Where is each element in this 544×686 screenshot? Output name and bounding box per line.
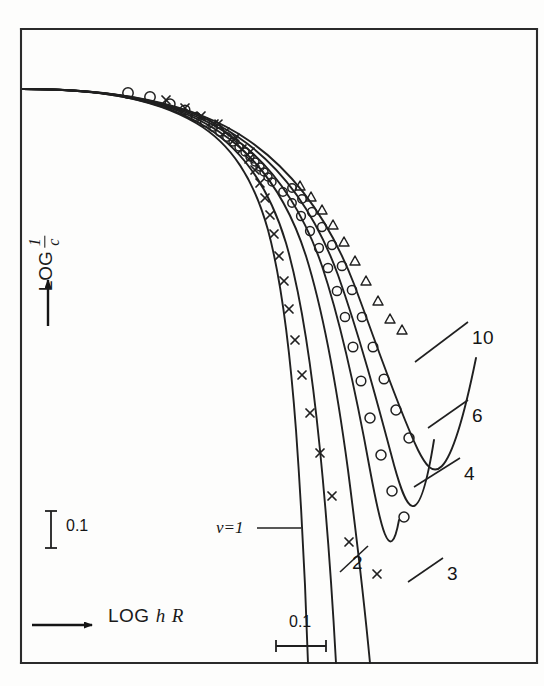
- figure-panel: LOG 1 c LOG h R 0.1 0.1 ν=1 2 3 4 6 10: [0, 0, 544, 686]
- data-point-circle: [328, 241, 337, 250]
- curve-group: [23, 89, 476, 663]
- data-point-cross: [285, 305, 293, 313]
- x-axis-label-prefix: LOG: [108, 605, 150, 627]
- data-point-cross: [270, 230, 278, 238]
- data-point-circle: [391, 405, 401, 415]
- data-point-cross: [373, 570, 381, 578]
- data-point-cross: [328, 492, 336, 500]
- vertical-scale-bar-label: 0.1: [66, 517, 88, 535]
- y-axis-label: LOG 1 c: [24, 200, 64, 330]
- horizontal-scale-bar-label: 0.1: [289, 613, 311, 631]
- data-point-cross: [162, 96, 170, 104]
- vertical-scale-bar: [45, 511, 57, 548]
- curve-nu-4: [23, 89, 399, 541]
- curve-label-nu-10: 10: [472, 327, 494, 349]
- data-point-triangle: [317, 205, 327, 214]
- data-point-cross: [256, 179, 264, 187]
- data-point-cross: [238, 145, 246, 153]
- plot-canvas: [0, 0, 544, 686]
- axis-frame: [21, 29, 537, 663]
- curve-label-nu-2: 2: [352, 552, 363, 574]
- data-point-circle: [387, 486, 397, 496]
- horizontal-scale-bar: [276, 640, 326, 652]
- data-point-circle: [347, 285, 356, 294]
- data-point-triangle: [361, 276, 371, 285]
- data-point-cross: [280, 277, 288, 285]
- data-point-circle: [356, 376, 366, 386]
- data-point-triangle: [373, 296, 383, 305]
- data-point-triangle: [385, 314, 395, 323]
- curve-nu-6: [23, 89, 434, 506]
- y-axis-label-fraction: 1 c: [27, 236, 62, 248]
- data-point-circle: [379, 374, 389, 384]
- data-point-circle: [332, 286, 341, 295]
- data-point-cross: [247, 148, 254, 155]
- data-point-triangle: [339, 237, 349, 246]
- data-point-circle: [323, 263, 332, 272]
- curve-label-nu-1: ν=1: [216, 518, 244, 538]
- data-point-cross: [345, 538, 353, 546]
- data-point-circle: [365, 413, 375, 423]
- data-point-circle: [399, 512, 409, 522]
- x-axis-label-var-h: h: [156, 605, 166, 627]
- data-point-cross: [306, 409, 314, 417]
- marker-group-crosses: [162, 96, 381, 578]
- data-point-triangle: [328, 220, 338, 229]
- leader-line-nu3: [408, 558, 443, 582]
- data-point-cross: [298, 371, 306, 379]
- curve-label-nu-6: 6: [472, 405, 483, 427]
- data-point-circle: [348, 342, 358, 352]
- curve-label-nu-4: 4: [464, 463, 475, 485]
- data-point-cross: [266, 211, 274, 219]
- fraction-numerator: 1: [27, 236, 43, 248]
- data-point-circle: [340, 312, 349, 321]
- fraction-denominator: c: [47, 237, 63, 248]
- x-axis-label: LOG h R: [108, 605, 184, 627]
- data-point-cross: [275, 252, 283, 260]
- data-point-circle: [376, 450, 386, 460]
- leader-line-group: [257, 322, 468, 582]
- data-point-triangle: [350, 256, 360, 265]
- data-point-circle: [337, 261, 346, 270]
- data-point-circle: [318, 223, 327, 232]
- curve-label-nu-3: 3: [447, 563, 458, 585]
- axis-arrow-group: [32, 280, 92, 625]
- curve-nu-3: [23, 89, 370, 663]
- leader-line-nu10: [415, 322, 468, 362]
- x-axis-label-var-R: R: [172, 605, 184, 627]
- data-point-cross: [291, 336, 299, 344]
- leader-line-nu6: [428, 400, 468, 428]
- y-axis-label-prefix: LOG: [35, 251, 57, 291]
- leader-line-nu4: [414, 458, 460, 487]
- data-point-triangle: [397, 325, 407, 334]
